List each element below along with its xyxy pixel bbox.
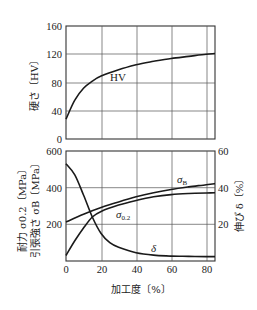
right-y-axis-label: 伸び δ〔%〕 xyxy=(234,174,245,233)
top-y-ticks: 160 120 80 40 0 xyxy=(46,21,62,145)
sigma-b-curve xyxy=(66,184,215,223)
tick-label: 20 xyxy=(97,264,108,275)
bottom-y-axis-label-2: 引張強さ σB〔MPa〕 xyxy=(29,158,41,258)
tick-label: 60 xyxy=(167,264,178,275)
top-chart xyxy=(66,26,215,139)
hv-curve-label: HV xyxy=(110,71,126,83)
bottom-chart xyxy=(66,151,215,261)
tick-label: 40 xyxy=(218,183,229,194)
tick-label: 160 xyxy=(46,21,62,32)
tick-label: 80 xyxy=(202,264,213,275)
top-y-axis-label: 硬さ〔HV〕 xyxy=(29,55,40,111)
tick-label: 600 xyxy=(46,146,62,157)
delta-label: δ xyxy=(151,242,157,254)
chart-canvas: 160 120 80 40 0 600 400 200 60 40 20 0 2… xyxy=(0,0,257,310)
delta-curve xyxy=(66,164,215,257)
tick-label: 60 xyxy=(218,146,229,157)
tick-label: 20 xyxy=(218,219,229,230)
tick-label: 400 xyxy=(46,183,62,194)
top-plot-frame xyxy=(66,26,215,139)
bottom-y-ticks: 600 400 200 xyxy=(46,146,62,230)
bottom-y-axis-label-1: 耐力 σ0.2〔MPa〕 xyxy=(16,164,28,252)
tick-label: 40 xyxy=(52,106,63,117)
right-y-ticks: 60 40 20 xyxy=(218,146,229,230)
tick-label: 200 xyxy=(46,219,62,230)
tick-label: 80 xyxy=(52,78,63,89)
sigma-02-label: σ0.2 xyxy=(116,208,131,222)
x-axis-label: 加工度〔%〕 xyxy=(111,283,171,295)
tick-label: 40 xyxy=(132,264,143,275)
top-grid xyxy=(66,26,215,139)
hv-curve xyxy=(66,54,215,120)
tick-label: 120 xyxy=(46,49,62,60)
tick-label: 0 xyxy=(63,264,68,275)
tick-label: 0 xyxy=(57,134,62,145)
sigma-b-label: σB xyxy=(177,173,187,187)
x-ticks: 0 20 40 60 80 xyxy=(63,264,212,275)
